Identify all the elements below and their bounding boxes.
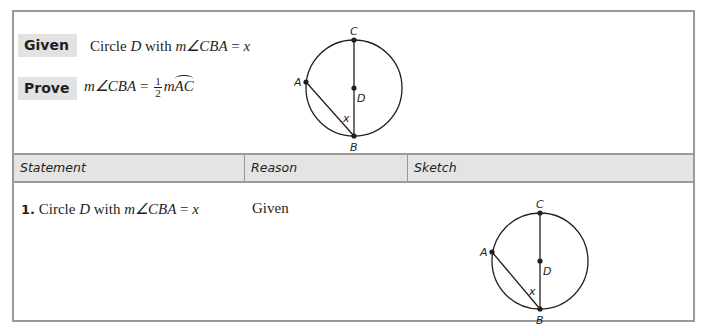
given-value: x: [244, 38, 251, 54]
label-angle-x: x: [342, 112, 350, 125]
proof-frame: Given Circle D with m∠CBA = x Prove m∠CB…: [12, 10, 695, 322]
given-prefix: Circle: [90, 38, 130, 54]
prove-statement: m∠CBA = 12mAC: [84, 76, 194, 99]
table-header: Statement Reason Sketch: [14, 153, 693, 183]
given-expr: m∠CBA: [175, 38, 227, 54]
given-statement: Circle D with m∠CBA = x: [90, 37, 250, 55]
prove-lhs: m∠CBA: [84, 78, 136, 94]
row-statement-mid: with: [90, 201, 124, 217]
prove-eq: =: [136, 78, 152, 94]
circle-diagram: C A D x B: [294, 6, 424, 156]
sketch-label-b: B: [536, 314, 544, 327]
given-prove-section: Given Circle D with m∠CBA = x Prove m∠CB…: [14, 12, 693, 155]
sketch-chord-ab: [492, 252, 540, 309]
given-label: Given: [18, 34, 77, 57]
label-d: D: [357, 92, 365, 105]
label-a: A: [294, 76, 302, 89]
sketch-label-c: C: [536, 198, 544, 211]
sketch-label-angle-x: x: [528, 285, 536, 298]
prove-label: Prove: [18, 77, 77, 100]
table-row: 1. Circle D with m∠CBA = x Given C A D x…: [14, 183, 693, 320]
given-eq: =: [228, 38, 244, 54]
fraction-denominator: 2: [154, 88, 162, 99]
row-statement-prefix: Circle: [39, 201, 79, 217]
sketch-point-c: [537, 210, 542, 215]
one-half-fraction: 12: [154, 76, 162, 99]
header-reason: Reason: [245, 155, 408, 181]
header-sketch: Sketch: [408, 155, 457, 181]
row-statement-expr: m∠CBA: [124, 201, 176, 217]
sketch-point-b: [537, 306, 542, 311]
row-number: 1.: [21, 202, 35, 217]
row-statement: 1. Circle D with m∠CBA = x: [21, 200, 199, 218]
sketch-label-d: D: [543, 265, 551, 278]
row-statement-circle: D: [79, 201, 90, 217]
row-statement-eq: =: [176, 201, 192, 217]
sketch-circle-diagram: C A D x B: [462, 182, 592, 332]
header-statement: Statement: [14, 155, 245, 181]
point-b: [351, 133, 356, 138]
prove-rhs-m: m: [164, 78, 175, 94]
row-statement-value: x: [192, 201, 199, 217]
given-circle-name: D: [130, 38, 141, 54]
sketch-point-d: [537, 258, 542, 263]
given-mid: with: [141, 38, 175, 54]
point-c: [351, 37, 356, 42]
arc-ac: AC: [174, 78, 193, 95]
row-reason: Given: [252, 200, 289, 217]
label-c: C: [350, 25, 358, 38]
sketch-point-a: [489, 249, 494, 254]
sketch-label-a: A: [479, 246, 488, 259]
point-d: [351, 85, 356, 90]
point-a: [303, 79, 308, 84]
chord-ab: [306, 82, 354, 136]
